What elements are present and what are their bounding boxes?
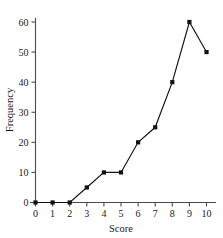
y-tick-label: 20 bbox=[19, 137, 29, 148]
x-tick-label: 4 bbox=[101, 208, 106, 219]
y-tick-label-group: 0102030405060 bbox=[19, 17, 29, 209]
data-point-marker bbox=[119, 170, 123, 174]
x-tick-group bbox=[36, 203, 207, 207]
y-tick-label: 10 bbox=[19, 167, 29, 178]
data-point-marker bbox=[68, 200, 72, 204]
y-tick-label: 30 bbox=[19, 107, 29, 118]
data-point-marker bbox=[170, 80, 174, 84]
data-point-marker bbox=[136, 140, 140, 144]
line-chart: 0102030405060 Frequency 012345678910 Sco… bbox=[0, 0, 223, 238]
y-axis-title: Frequency bbox=[4, 87, 15, 132]
data-point-marker bbox=[187, 20, 191, 24]
y-tick-label: 0 bbox=[24, 197, 29, 208]
x-tick-label: 0 bbox=[33, 208, 38, 219]
x-tick-label: 5 bbox=[119, 208, 124, 219]
data-series bbox=[33, 20, 208, 205]
x-tick-label: 7 bbox=[153, 208, 158, 219]
data-point-marker bbox=[85, 185, 89, 189]
x-tick-label: 2 bbox=[67, 208, 72, 219]
x-tick-label: 8 bbox=[170, 208, 175, 219]
y-tick-label: 40 bbox=[19, 77, 29, 88]
y-axis: 0102030405060 Frequency bbox=[4, 17, 36, 209]
x-tick-label: 1 bbox=[50, 208, 55, 219]
x-tick-label: 6 bbox=[136, 208, 141, 219]
data-point-marker bbox=[33, 200, 37, 204]
y-tick-label: 60 bbox=[19, 17, 29, 28]
chart-canvas: 0102030405060 Frequency 012345678910 Sco… bbox=[0, 0, 223, 238]
x-tick-label: 3 bbox=[84, 208, 89, 219]
x-tick-label: 9 bbox=[187, 208, 192, 219]
data-point-marker bbox=[51, 200, 55, 204]
data-point-marker bbox=[153, 125, 157, 129]
y-tick-label: 50 bbox=[19, 47, 29, 58]
y-tick-group bbox=[32, 22, 36, 203]
x-tick-label: 10 bbox=[202, 208, 212, 219]
x-axis-title: Score bbox=[109, 223, 133, 234]
data-point-marker bbox=[102, 170, 106, 174]
x-tick-label-group: 012345678910 bbox=[33, 208, 212, 219]
data-point-marker bbox=[204, 50, 208, 54]
series-line-frequency bbox=[36, 22, 207, 203]
x-axis: 012345678910 Score bbox=[30, 203, 216, 235]
